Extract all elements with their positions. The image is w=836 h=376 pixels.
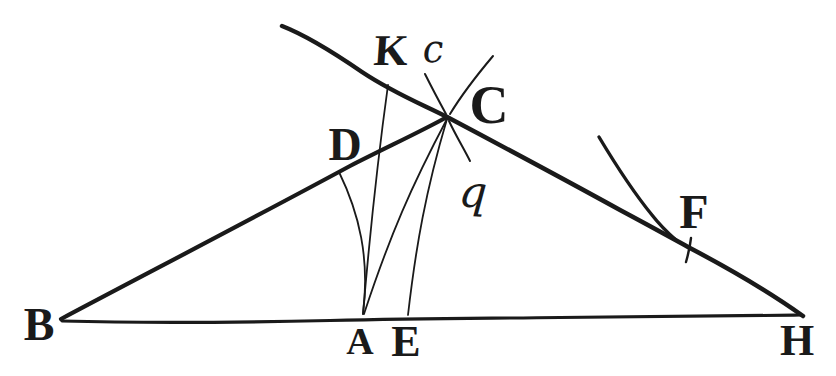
line-B-C [61,117,447,319]
point-label-B: B [24,302,55,348]
point-label-D: D [328,122,361,168]
line-C-A [364,119,447,314]
line-base-B-H [62,315,801,322]
point-label-C: C [470,78,509,132]
point-label-A: A [346,322,373,360]
point-label-c-small: c [421,29,445,68]
engraved-geometry-figure: B K c C D q F A E H [0,0,836,376]
point-label-K: K [372,29,409,73]
line-C-E [408,119,447,315]
point-label-H: H [780,319,814,363]
arc-to-F [599,137,676,240]
point-label-E: E [391,320,420,364]
line-K-C-F-H [282,26,803,316]
arc-D-A [339,172,365,314]
point-label-F: F [679,188,708,236]
point-label-q: q [457,169,488,215]
